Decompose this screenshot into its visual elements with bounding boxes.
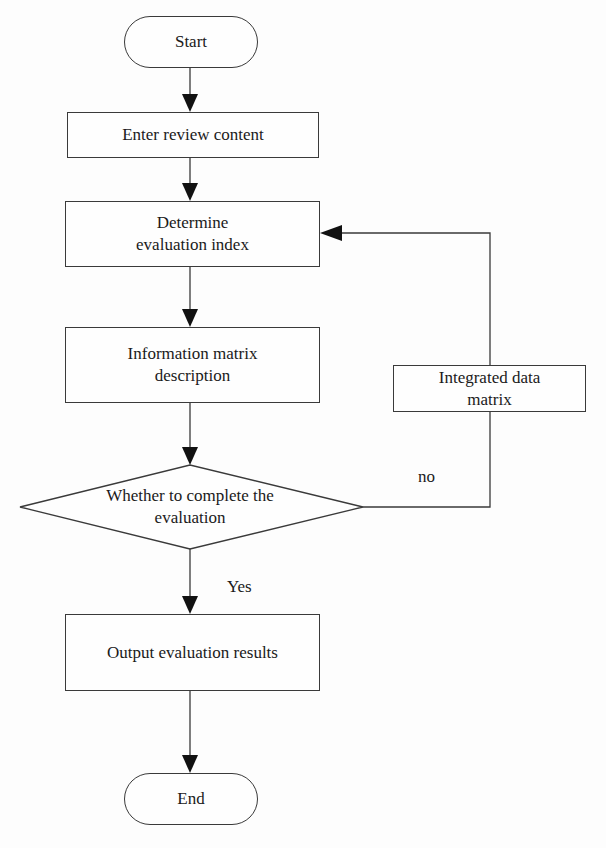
no-branch-label: no <box>418 467 435 487</box>
arrowhead-icon <box>320 225 342 241</box>
arrowhead-icon <box>182 596 198 614</box>
output-label: Output evaluation results <box>107 642 278 664</box>
integrated-label: Integrated data matrix <box>424 367 555 411</box>
info-label: Information matrix description <box>126 343 259 387</box>
arrowhead-icon <box>182 447 198 465</box>
start-label: Start <box>175 31 207 53</box>
arrowhead-icon <box>182 309 198 327</box>
determine-evaluation-index-box: Determine evaluation index <box>65 201 320 267</box>
start-terminal: Start <box>124 16 258 68</box>
arrowhead-icon <box>182 755 198 773</box>
decision-text: Whether to complete the evaluation <box>80 485 300 529</box>
output-results-box: Output evaluation results <box>65 614 320 691</box>
enter-review-content-box: Enter review content <box>67 112 319 158</box>
yes-branch-label: Yes <box>227 577 252 597</box>
determine-label: Determine evaluation index <box>126 212 259 256</box>
integrated-data-matrix-box: Integrated data matrix <box>393 365 586 412</box>
arrowhead-icon <box>182 183 198 201</box>
end-label: End <box>177 788 204 810</box>
end-terminal: End <box>124 773 258 825</box>
arrowhead-icon <box>182 94 198 112</box>
information-matrix-box: Information matrix description <box>65 327 320 403</box>
enter-label: Enter review content <box>122 124 264 146</box>
